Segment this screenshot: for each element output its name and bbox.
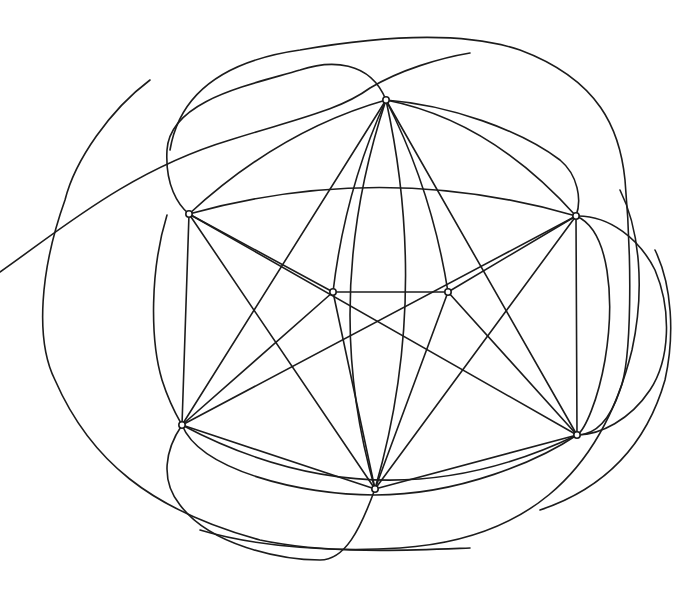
vertices [179,97,580,492]
vertex-D [330,289,336,295]
edge-outer-F-H [167,425,375,560]
edge-D-F [182,292,333,425]
vertex-H [372,486,378,492]
edge-A-D [333,100,386,292]
edge-A-F [182,100,386,425]
edge-E-H [375,292,448,489]
edge-A-G [386,100,577,435]
edge-B-C [189,187,576,216]
vertex-E [445,289,451,295]
edge-D-H [333,292,375,489]
inner-edges [182,100,577,489]
edge-outer-A-C [386,100,579,216]
edge-outer-B-F [154,215,182,425]
edge-A-H2 [375,100,406,489]
edge-A-H [350,100,386,489]
vertex-A [383,97,389,103]
edge-outer-G-right [540,250,671,510]
outer-edges [0,37,671,560]
edge-outer-B-G [182,425,577,495]
vertex-C [573,213,579,219]
edge-A-E [386,100,448,292]
graph-diagram [0,0,698,610]
edge-C-G-inner [576,216,610,435]
edge-A-C [386,100,576,216]
edge-G-H [375,435,577,489]
vertex-G [574,432,580,438]
edge-B-H [189,214,375,489]
edge-outer-C-G [576,216,666,435]
edge-C-F [182,216,576,425]
edge-A-B [189,100,386,214]
vertex-F [179,422,185,428]
edge-C-G [576,216,577,435]
vertex-B [186,211,192,217]
edge-B-F [182,214,189,425]
edge-C-E [448,216,576,292]
